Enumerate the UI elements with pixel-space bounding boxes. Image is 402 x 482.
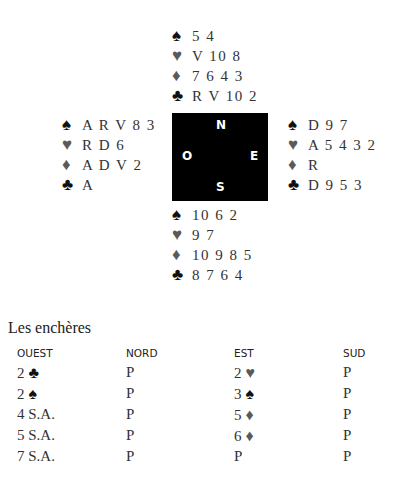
cards: A D V 2	[82, 157, 142, 173]
spade-icon: ♠	[172, 26, 192, 46]
bid-cell: 6♦	[234, 425, 343, 446]
club-icon: ♣	[172, 265, 192, 285]
cards: R D 6	[82, 137, 125, 153]
bidding-header: OUEST NORD EST SUD	[17, 344, 393, 362]
compass-east: E	[250, 149, 258, 163]
bid-cell: 4 S.A.	[17, 404, 126, 425]
club-icon: ♣	[288, 175, 308, 195]
hand-north: ♠5 4♥V 10 8♦7 6 4 3♣R V 10 2	[172, 26, 258, 106]
club-icon: ♣	[29, 362, 40, 383]
south-clubs-line: ♣8 7 6 4	[172, 265, 253, 285]
heart-icon: ♥	[246, 362, 256, 383]
header-sud: SUD	[343, 344, 393, 362]
cards: D 9 7	[308, 117, 349, 133]
north-hearts-line: ♥V 10 8	[172, 46, 258, 66]
bid-cell: P	[126, 404, 234, 425]
east-diamonds-line: ♦R	[288, 155, 377, 175]
bid-cell: P	[343, 404, 393, 425]
spade-icon: ♠	[288, 115, 308, 135]
compass-south: S	[216, 180, 225, 194]
heart-icon: ♥	[172, 46, 192, 66]
cards: 8 7 6 4	[192, 267, 244, 283]
cards: 9 7	[192, 227, 215, 243]
cards: R V 10 2	[192, 88, 258, 104]
bid-cell: P	[343, 425, 393, 446]
bid-cell: P	[343, 446, 393, 467]
west-clubs-line: ♣A	[62, 175, 156, 195]
east-spades-line: ♠D 9 7	[288, 115, 377, 135]
cards: A 5 4 3 2	[308, 137, 377, 153]
bid-cell: P	[343, 362, 393, 383]
club-icon: ♣	[172, 86, 192, 106]
bidding-row: 7 S.A.PPP	[17, 446, 393, 467]
north-diamonds-line: ♦7 6 4 3	[172, 66, 258, 86]
cards: 5 4	[192, 28, 215, 44]
bid-cell: 5 S.A.	[17, 425, 126, 446]
compass-west: O	[182, 149, 192, 163]
west-hearts-line: ♥R D 6	[62, 135, 156, 155]
bidding-row: 4 S.A.P5♦P	[17, 404, 393, 425]
cards: A R V 8 3	[82, 117, 156, 133]
hand-west: ♠A R V 8 3♥R D 6♦A D V 2♣A	[62, 115, 156, 195]
south-diamonds-line: ♦10 9 8 5	[172, 245, 253, 265]
hand-south: ♠10 6 2♥9 7♦10 9 8 5♣8 7 6 4	[172, 205, 253, 285]
spade-icon: ♠	[62, 115, 82, 135]
hand-east: ♠D 9 7♥A 5 4 3 2♦R♣D 9 5 3	[288, 115, 377, 195]
spade-icon: ♠	[29, 383, 38, 404]
auction-title: Les enchères	[8, 319, 91, 337]
header-ouest: OUEST	[17, 344, 126, 362]
cards: A	[82, 177, 94, 193]
north-spades-line: ♠5 4	[172, 26, 258, 46]
bidding-table: OUEST NORD EST SUD 2♣P2♥P2♠P3♠P4 S.A.P5♦…	[17, 344, 393, 467]
south-spades-line: ♠10 6 2	[172, 205, 253, 225]
bidding-row: 2♣P2♥P	[17, 362, 393, 383]
cards: V 10 8	[192, 48, 242, 64]
west-diamonds-line: ♦A D V 2	[62, 155, 156, 175]
cards: 10 6 2	[192, 207, 239, 223]
cards: R	[308, 157, 320, 173]
heart-icon: ♥	[172, 225, 192, 245]
bidding-row: 5 S.A.P6♦P	[17, 425, 393, 446]
bidding-row: 2♠P3♠P	[17, 383, 393, 404]
spade-icon: ♠	[246, 383, 255, 404]
cards: D 9 5 3	[308, 177, 363, 193]
compass-table: N O E S	[172, 113, 268, 201]
bid-cell: 2♣	[17, 362, 126, 383]
diamond-icon: ♦	[288, 155, 308, 175]
east-hearts-line: ♥A 5 4 3 2	[288, 135, 377, 155]
bid-cell: 3♠	[234, 383, 343, 404]
diamond-icon: ♦	[246, 404, 254, 425]
bid-cell: 2♠	[17, 383, 126, 404]
south-hearts-line: ♥9 7	[172, 225, 253, 245]
cards: 7 6 4 3	[192, 68, 244, 84]
bid-cell: P	[126, 446, 234, 467]
heart-icon: ♥	[288, 135, 308, 155]
bid-cell: 2♥	[234, 362, 343, 383]
diamond-icon: ♦	[172, 245, 192, 265]
north-clubs-line: ♣R V 10 2	[172, 86, 258, 106]
bid-cell: P	[126, 362, 234, 383]
header-est: EST	[234, 344, 343, 362]
diamond-icon: ♦	[172, 66, 192, 86]
bid-cell: P	[126, 383, 234, 404]
west-spades-line: ♠A R V 8 3	[62, 115, 156, 135]
bid-cell: P	[234, 446, 343, 467]
spade-icon: ♠	[172, 205, 192, 225]
diamond-icon: ♦	[62, 155, 82, 175]
east-clubs-line: ♣D 9 5 3	[288, 175, 377, 195]
cards: 10 9 8 5	[192, 247, 253, 263]
club-icon: ♣	[62, 175, 82, 195]
diamond-icon: ♦	[246, 425, 254, 446]
heart-icon: ♥	[62, 135, 82, 155]
compass-north: N	[216, 118, 226, 132]
header-nord: NORD	[126, 344, 234, 362]
bid-cell: P	[126, 425, 234, 446]
bid-cell: 7 S.A.	[17, 446, 126, 467]
bid-cell: 5♦	[234, 404, 343, 425]
bid-cell: P	[343, 383, 393, 404]
